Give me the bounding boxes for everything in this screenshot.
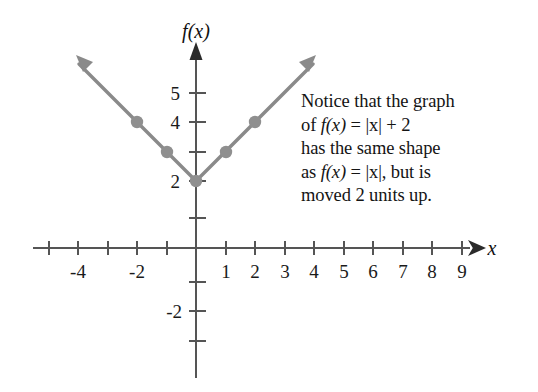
y-tick-label: 2 bbox=[171, 171, 181, 192]
annotation-line-1: Notice that the graph bbox=[301, 90, 526, 114]
x-tick-label: 3 bbox=[280, 261, 290, 282]
absolute-value-graph-figure: -4 -2 1 2 3 4 5 6 7 8 9 5 4 2 -2 f(x) x … bbox=[0, 0, 538, 392]
annotation-line-3: has the same shape bbox=[301, 137, 526, 161]
y-tick-labels: 5 4 2 -2 bbox=[166, 83, 182, 322]
y-axis bbox=[189, 42, 206, 378]
x-tick-labels: -4 -2 1 2 3 4 5 6 7 8 9 bbox=[70, 261, 467, 282]
y-tick-label: -2 bbox=[166, 301, 182, 322]
annotation-line-4-prefix: as bbox=[301, 162, 321, 182]
y-axis-label: f(x) bbox=[182, 20, 210, 43]
x-tick-label: 2 bbox=[250, 261, 260, 282]
data-point bbox=[131, 116, 143, 128]
data-point bbox=[220, 146, 232, 158]
x-tick-label: 7 bbox=[398, 261, 408, 282]
annotation-line-2-rest: = |x| + 2 bbox=[346, 115, 410, 135]
x-axis-label: x bbox=[487, 237, 497, 259]
x-tick-label: 5 bbox=[339, 261, 349, 282]
x-tick-label: -2 bbox=[129, 261, 145, 282]
annotation-line-2-function: f(x) bbox=[321, 115, 346, 135]
y-tick-label: 4 bbox=[171, 112, 181, 133]
y-axis-ticks bbox=[189, 93, 206, 341]
x-tick-label: 6 bbox=[368, 261, 378, 282]
annotation-line-4-function: f(x) bbox=[321, 162, 346, 182]
y-axis-arrowhead bbox=[190, 42, 203, 60]
x-axis bbox=[33, 241, 470, 255]
annotation-line-5: moved 2 units up. bbox=[301, 184, 526, 208]
x-tick-label: 9 bbox=[457, 261, 467, 282]
annotation-line-2: of f(x) = |x| + 2 bbox=[301, 114, 526, 138]
data-point bbox=[190, 175, 202, 187]
x-tick-label: 4 bbox=[309, 261, 319, 282]
data-point bbox=[249, 116, 261, 128]
x-tick-label: 8 bbox=[427, 261, 437, 282]
x-tick-label: 1 bbox=[221, 261, 231, 282]
y-tick-label: 5 bbox=[171, 83, 181, 104]
annotation-line-2-prefix: of bbox=[301, 115, 321, 135]
data-point bbox=[161, 146, 173, 158]
annotation-text: Notice that the graph of f(x) = |x| + 2 … bbox=[301, 90, 526, 208]
x-tick-label: -4 bbox=[70, 261, 86, 282]
annotation-line-4: as f(x) = |x|, but is bbox=[301, 161, 526, 185]
annotation-line-4-rest: = |x|, but is bbox=[346, 162, 431, 182]
